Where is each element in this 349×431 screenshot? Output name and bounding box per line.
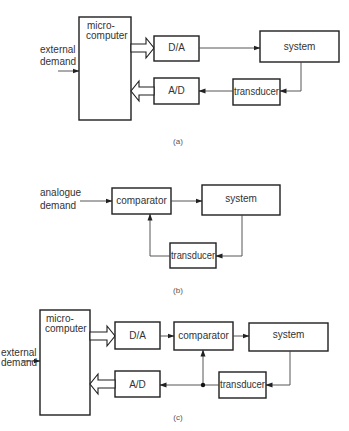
caption-c: (c) [173, 413, 183, 422]
system-label-b: system [225, 193, 257, 204]
bus-arrow-icon-micro-to-da-a [131, 38, 154, 58]
da-label-c: D/A [129, 330, 146, 341]
input-label-a-line1: external [40, 44, 76, 55]
diagram-b: analogue demand comparator system transd… [40, 185, 280, 295]
comparator-label-b: comparator [116, 195, 167, 206]
comparator-label-c: comparator [178, 330, 229, 341]
bus-arrow-icon-micro-to-da-c [90, 326, 115, 346]
diagram-c: external demand micro- computer D/A comp… [1, 310, 328, 422]
diagram-a: external demand micro- computer D/A syst… [40, 17, 339, 146]
microcomputer-label-a-line2: computer [86, 30, 128, 41]
junction-dot-icon [201, 383, 205, 387]
diagram-canvas: external demand micro- computer D/A syst… [0, 0, 349, 431]
transducer-label-a: transducer [234, 86, 280, 97]
transducer-label-b: transducer [171, 250, 216, 261]
caption-b: (b) [173, 286, 183, 295]
input-label-c-line2: demand [1, 357, 37, 368]
arrow-system-to-transducer-b [216, 215, 242, 256]
system-label-c: system [273, 329, 305, 340]
ad-label-c: A/D [129, 379, 146, 390]
arrow-system-to-transducer-a [280, 62, 301, 91]
ad-label-a: A/D [168, 85, 185, 96]
bus-arrow-icon-ad-to-micro-a [131, 81, 154, 101]
bus-arrow-icon-ad-to-micro-c [90, 374, 115, 394]
transducer-label-c: transducer [220, 379, 266, 390]
da-label-a: D/A [168, 42, 185, 53]
arrow-system-to-transducer-c [266, 351, 290, 385]
caption-a: (a) [173, 137, 183, 146]
arrow-feedback-to-comparator-b [150, 214, 170, 256]
input-label-b-line1: analogue [40, 187, 82, 198]
input-label-b-line2: demand [40, 200, 76, 211]
microcomputer-label-c-line2: computer [45, 323, 87, 334]
input-label-a-line2: demand [40, 56, 76, 67]
system-label-a: system [284, 41, 316, 52]
